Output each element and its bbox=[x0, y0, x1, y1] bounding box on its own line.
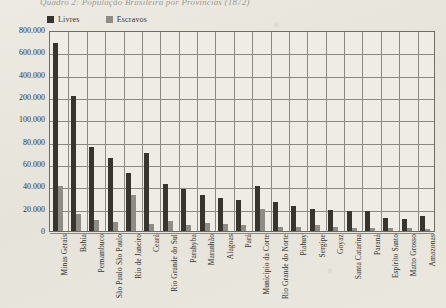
bar-livres bbox=[144, 153, 149, 231]
gridline-vertical bbox=[234, 32, 235, 231]
gridline-vertical bbox=[179, 32, 180, 231]
bar-escravos bbox=[425, 229, 430, 231]
bar-escravos bbox=[131, 195, 136, 231]
bar-group bbox=[347, 211, 357, 231]
x-axis-label-text: Minas Gerais bbox=[61, 234, 69, 275]
y-axis: 800.000600.000400.000200.000100.00080.00… bbox=[0, 31, 47, 232]
bar-escravos bbox=[76, 214, 81, 231]
bar-escravos bbox=[241, 225, 246, 231]
bar-livres bbox=[89, 147, 94, 231]
gridline-vertical bbox=[418, 32, 419, 231]
bar-escravos bbox=[223, 224, 228, 231]
x-axis-labels: Minas GeraisBahiaPernambucoSão Paulo São… bbox=[49, 233, 435, 308]
bar-group bbox=[291, 206, 301, 231]
bar-escravos bbox=[407, 228, 412, 231]
legend-label-escravos: Escravos bbox=[117, 15, 147, 24]
bar-escravos bbox=[333, 227, 338, 231]
bar-group bbox=[402, 219, 412, 231]
y-axis-tick-label: 600.000 bbox=[19, 49, 45, 57]
bar-group bbox=[71, 96, 81, 231]
chart-figure: Quadro 2: População Brasileira por Proví… bbox=[0, 0, 446, 308]
x-axis-label-text: Bahia bbox=[80, 234, 88, 252]
bar-escravos bbox=[168, 221, 173, 231]
x-axis-label-text: Parahyba bbox=[190, 234, 198, 263]
bar-escravos bbox=[388, 228, 393, 231]
gridline-vertical bbox=[326, 32, 327, 231]
bar-livres bbox=[108, 158, 113, 231]
gridline-vertical bbox=[307, 32, 308, 231]
gridline-vertical bbox=[215, 32, 216, 231]
x-axis-label-text: Alagoas bbox=[227, 234, 235, 259]
x-axis-label-text: Amazonas bbox=[429, 234, 437, 266]
gridline-horizontal bbox=[50, 54, 434, 55]
gridline-vertical bbox=[87, 32, 88, 231]
x-axis-label-text: Ceará bbox=[153, 234, 161, 252]
gridline-horizontal bbox=[50, 99, 434, 100]
bar-group bbox=[181, 189, 191, 231]
bar-group bbox=[218, 198, 228, 232]
bar-escravos bbox=[315, 225, 320, 231]
bar-escravos bbox=[352, 228, 357, 231]
x-axis-label-text: Maranhão bbox=[208, 234, 216, 265]
legend-swatch-livres bbox=[47, 16, 54, 23]
bar-escravos bbox=[186, 225, 191, 231]
legend-item-escravos: Escravos bbox=[106, 15, 147, 24]
bar-group bbox=[126, 173, 136, 231]
bar-group bbox=[273, 202, 283, 231]
gridline-horizontal bbox=[50, 144, 434, 145]
bar-group bbox=[89, 147, 99, 231]
x-axis-label-text: Paraná bbox=[374, 234, 382, 255]
legend-item-livres: Livres bbox=[47, 15, 80, 24]
bar-group bbox=[108, 158, 118, 231]
gridline-horizontal bbox=[50, 77, 434, 78]
gridline-vertical bbox=[399, 32, 400, 231]
gridline-vertical bbox=[381, 32, 382, 231]
gridline-vertical bbox=[252, 32, 253, 231]
x-axis-label-text: Rio Grande do Sul bbox=[171, 234, 179, 292]
y-axis-tick-label: 60.000 bbox=[23, 161, 45, 169]
y-axis-tick-label: 80.000 bbox=[23, 139, 45, 147]
bar-group bbox=[383, 218, 393, 231]
bar-group bbox=[53, 43, 63, 231]
gridline-vertical bbox=[124, 32, 125, 231]
y-axis-tick-label: 20.000 bbox=[23, 206, 45, 214]
legend-swatch-escravos bbox=[106, 16, 113, 23]
bar-group bbox=[163, 184, 173, 231]
y-axis-tick-label: 40.000 bbox=[23, 183, 45, 191]
bar-escravos bbox=[278, 227, 283, 231]
bar-escravos bbox=[58, 186, 63, 231]
gridline-vertical bbox=[68, 32, 69, 231]
bar-escravos bbox=[296, 227, 301, 231]
x-axis-label-text: Município da Corte bbox=[263, 234, 271, 295]
x-axis-label-text: Pará bbox=[245, 234, 253, 248]
x-axis-label-text: Goyaz bbox=[337, 234, 345, 254]
gridline-vertical bbox=[362, 32, 363, 231]
gridline-horizontal bbox=[50, 121, 434, 122]
chart-title: Quadro 2: População Brasileira por Proví… bbox=[40, 0, 420, 7]
gridline-vertical bbox=[344, 32, 345, 231]
bar-group bbox=[200, 195, 210, 231]
bar-group bbox=[236, 200, 246, 231]
bar-group bbox=[365, 211, 375, 231]
bar-escravos bbox=[205, 223, 210, 231]
legend-label-livres: Livres bbox=[58, 15, 80, 24]
x-axis-label-text: São Paulo São Paulo bbox=[116, 234, 124, 298]
bar-group bbox=[255, 186, 265, 231]
bar-group bbox=[310, 209, 320, 231]
bar-escravos bbox=[113, 222, 118, 231]
chart-legend: Livres Escravos bbox=[47, 15, 147, 24]
bar-group bbox=[420, 216, 430, 231]
bar-escravos bbox=[260, 209, 265, 231]
x-axis-label-text: Rio Grande do Norte bbox=[282, 234, 290, 299]
x-axis-label-text: Rio de Janeiro bbox=[135, 234, 143, 279]
y-axis-tick-label: 800.000 bbox=[19, 27, 45, 35]
gridline-vertical bbox=[197, 32, 198, 231]
gridline-vertical bbox=[105, 32, 106, 231]
plot-area bbox=[49, 31, 435, 232]
y-axis-tick-label: 200.000 bbox=[19, 94, 45, 102]
bar-escravos bbox=[94, 220, 99, 231]
x-axis-label-text: Santa Catarina bbox=[355, 234, 363, 279]
bar-group bbox=[328, 210, 338, 231]
y-axis-tick-label: 400.000 bbox=[19, 72, 45, 80]
x-axis-label-text: Pernambuco bbox=[98, 234, 106, 273]
